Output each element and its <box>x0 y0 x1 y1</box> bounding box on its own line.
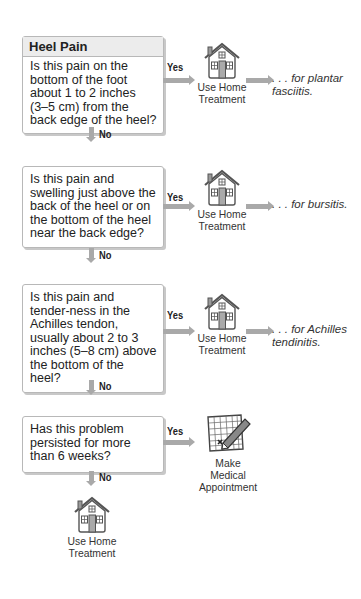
home-treatment-node-2: Use Home Treatment <box>187 168 257 232</box>
question-box-2: Is this pain and swelling just above the… <box>22 166 164 248</box>
no-label-3: No <box>99 380 111 392</box>
yes-arrow-2 <box>163 204 189 209</box>
medical-appointment-node: Make Medical Appointment <box>188 413 268 493</box>
action-label-3: Use Home Treatment <box>191 332 254 356</box>
house-icon <box>69 495 115 535</box>
yes-label-1: Yes <box>167 61 183 73</box>
result-text-3: . . . for Achilles tendinitis. <box>272 323 352 348</box>
result-text-2: . . . for bursitis. <box>272 198 357 211</box>
no-label-1: No <box>99 128 111 140</box>
yes-label-2: Yes <box>167 191 183 203</box>
home-treatment-node-final: Use Home Treatment <box>57 495 127 559</box>
yes-arrow-3 <box>163 329 189 334</box>
result-arrow-1 <box>246 78 268 83</box>
yes-label-3: Yes <box>167 309 183 321</box>
result-arrow-3 <box>246 329 268 334</box>
house-icon <box>199 168 245 208</box>
calendar-pencil-icon <box>203 413 253 457</box>
question-box-4: Has this problem persisted for more than… <box>22 416 164 473</box>
question-box-1: Heel Pain Is this pain on the bottom of … <box>22 36 164 134</box>
home-treatment-node-3: Use Home Treatment <box>187 292 257 356</box>
action-label-1: Use Home Treatment <box>191 81 254 105</box>
chart-title: Heel Pain <box>23 37 163 57</box>
question-text-1: Is this pain on the bottom of the foot a… <box>23 57 163 133</box>
no-label-2: No <box>99 249 111 261</box>
yes-arrow-1 <box>163 78 189 83</box>
result-arrow-2 <box>246 204 268 209</box>
question-box-3: Is this pain and tender-ness in the Achi… <box>22 284 164 393</box>
action-label-2: Use Home Treatment <box>191 208 254 232</box>
final-action-label: Use Home Treatment <box>61 535 124 559</box>
question-text-2: Is this pain and swelling just above the… <box>23 167 163 247</box>
no-arrow-2 <box>89 248 94 258</box>
no-arrow-1 <box>89 127 94 137</box>
no-label-4: No <box>99 471 111 483</box>
result-text-1: . . . for plantar fasciitis. <box>272 72 352 97</box>
question-text-3: Is this pain and tender-ness in the Achi… <box>23 285 163 392</box>
house-icon <box>199 41 245 81</box>
no-arrow-4 <box>89 471 94 481</box>
yes-arrow-4 <box>163 440 189 445</box>
question-text-4: Has this problem persisted for more than… <box>23 417 163 472</box>
action-label-4: Make Medical Appointment <box>197 457 260 493</box>
yes-label-4: Yes <box>167 425 183 437</box>
home-treatment-node-1: Use Home Treatment <box>187 41 257 105</box>
house-icon <box>199 292 245 332</box>
no-arrow-3 <box>89 380 94 390</box>
